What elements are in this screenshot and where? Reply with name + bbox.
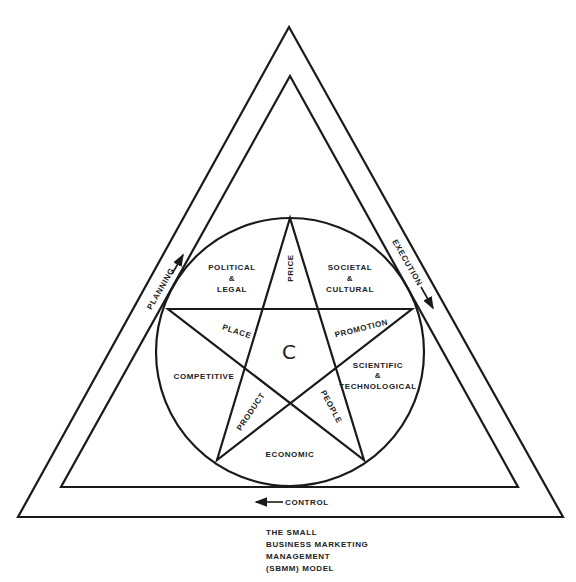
- svg-text:ECONOMIC: ECONOMIC: [266, 450, 315, 459]
- svg-text:&: &: [375, 371, 381, 380]
- label-political-legal: POLITICAL & LEGAL: [208, 263, 256, 294]
- label-societal-cultural: SOCIETAL & CULTURAL: [326, 263, 374, 294]
- label-promotion: PROMOTION: [334, 318, 389, 340]
- svg-text:CULTURAL: CULTURAL: [326, 285, 374, 294]
- execution-arrow-icon: [421, 287, 433, 308]
- svg-text:(SBMM) MODEL: (SBMM) MODEL: [266, 564, 334, 573]
- label-execution: EXECUTION: [390, 238, 424, 288]
- svg-text:SOCIETAL: SOCIETAL: [328, 263, 373, 272]
- label-competitive: COMPETITIVE: [174, 372, 235, 381]
- label-people: PEOPLE: [319, 389, 344, 425]
- label-economic: ECONOMIC: [266, 450, 315, 459]
- svg-text:TECHNOLOGICAL: TECHNOLOGICAL: [339, 382, 417, 391]
- svg-text:LEGAL: LEGAL: [217, 285, 247, 294]
- label-control: CONTROL: [285, 498, 329, 507]
- center-label: C: [282, 340, 296, 364]
- control-indicator: CONTROL: [256, 498, 329, 507]
- figure-caption: THE SMALL BUSINESS MARKETING MANAGEMENT …: [266, 528, 368, 573]
- svg-text:&: &: [347, 274, 353, 283]
- svg-text:SCIENTIFIC: SCIENTIFIC: [353, 361, 403, 370]
- label-scientific-technological: SCIENTIFIC & TECHNOLOGICAL: [339, 361, 417, 391]
- label-price: PRICE: [286, 254, 295, 282]
- svg-text:BUSINESS MARKETING: BUSINESS MARKETING: [266, 540, 368, 549]
- sbmm-diagram: C PRICE PLACE PROMOTION PRODUCT PEOPLE P…: [0, 0, 576, 582]
- svg-text:THE SMALL: THE SMALL: [266, 528, 317, 537]
- label-place: PLACE: [221, 323, 252, 341]
- svg-text:POLITICAL: POLITICAL: [208, 263, 256, 272]
- svg-text:MANAGEMENT: MANAGEMENT: [266, 552, 330, 561]
- svg-text:&: &: [229, 274, 235, 283]
- svg-text:COMPETITIVE: COMPETITIVE: [174, 372, 235, 381]
